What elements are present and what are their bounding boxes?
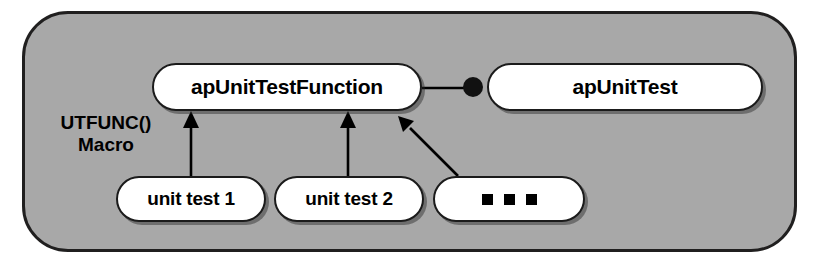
node-ap-unit-test-function[interactable]: apUnitTestFunction bbox=[152, 63, 422, 111]
node-ap-unit-test[interactable]: apUnitTest bbox=[487, 63, 763, 111]
utfunc-macro-label: UTFUNC() Macro bbox=[46, 112, 166, 157]
node-unit-test-1[interactable]: unit test 1 bbox=[116, 176, 266, 222]
node-unit-test-2[interactable]: unit test 2 bbox=[274, 176, 424, 222]
ellipsis-icon bbox=[482, 194, 537, 205]
diagram-root: UTFUNC() Macro apUnitTestFunction apUnit… bbox=[0, 0, 817, 267]
node-more-unit-tests[interactable] bbox=[433, 176, 585, 222]
